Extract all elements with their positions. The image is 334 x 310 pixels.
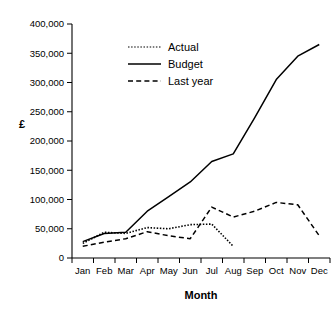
x-tick-label: Jan xyxy=(75,265,90,276)
y-tick-label: 200,000 xyxy=(30,135,64,146)
y-axis-ticks xyxy=(67,24,72,258)
x-axis-ticks xyxy=(72,258,330,263)
x-tick-label: Aug xyxy=(225,265,242,276)
y-tick-label: 150,000 xyxy=(30,165,64,176)
x-tick-label: May xyxy=(160,265,178,276)
x-tick-label: Mar xyxy=(118,265,134,276)
x-axis-tick-labels: JanFebMarAprMayJunJulAugSepOctNovDec xyxy=(75,265,328,276)
y-tick-label: 350,000 xyxy=(30,48,64,59)
series-line-actual xyxy=(83,224,234,246)
y-axis-title: £ xyxy=(19,118,25,130)
x-tick-label: Nov xyxy=(289,265,306,276)
legend-label-budget: Budget xyxy=(168,58,203,70)
y-tick-label: 100,000 xyxy=(30,194,64,205)
legend-label-last-year: Last year xyxy=(168,75,214,87)
y-axis-tick-labels: 050,000100,000150,000200,000250,000300,0… xyxy=(30,18,64,263)
legend-label-actual: Actual xyxy=(168,41,199,53)
y-tick-label: 400,000 xyxy=(30,18,64,29)
x-tick-label: Feb xyxy=(96,265,112,276)
x-axis-title: Month xyxy=(185,289,218,301)
x-tick-label: Oct xyxy=(269,265,284,276)
chart-canvas: 050,000100,000150,000200,000250,000300,0… xyxy=(0,0,334,310)
x-tick-label: Dec xyxy=(311,265,328,276)
chart-legend: ActualBudgetLast year xyxy=(128,41,214,87)
x-tick-label: Jun xyxy=(183,265,198,276)
y-tick-label: 300,000 xyxy=(30,77,64,88)
x-tick-label: Apr xyxy=(140,265,155,276)
y-tick-label: 250,000 xyxy=(30,106,64,117)
y-tick-label: 50,000 xyxy=(35,223,64,234)
line-chart: 050,000100,000150,000200,000250,000300,0… xyxy=(0,0,334,310)
x-tick-label: Sep xyxy=(246,265,263,276)
x-tick-label: Jul xyxy=(206,265,218,276)
y-tick-label: 0 xyxy=(59,252,64,263)
